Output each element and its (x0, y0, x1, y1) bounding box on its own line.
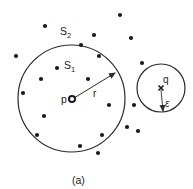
data-point (129, 36, 133, 40)
diagram: S2 S1 p r q ε (a) (0, 0, 193, 189)
data-point (118, 13, 122, 17)
data-point (86, 77, 90, 81)
data-point (140, 61, 144, 65)
data-point (39, 77, 43, 81)
data-point (92, 33, 96, 37)
data-point (136, 129, 140, 133)
data-point (21, 91, 25, 95)
label-s2: S2 (60, 25, 71, 40)
data-point (43, 24, 47, 28)
data-point (125, 125, 129, 129)
data-point (79, 43, 83, 47)
data-point (97, 54, 101, 58)
data-point (96, 151, 100, 155)
query-point-cross-icon (159, 86, 164, 91)
center-point-p (69, 96, 75, 102)
data-point (107, 103, 111, 107)
data-point (132, 103, 136, 107)
label-p: p (61, 93, 67, 105)
data-point (55, 66, 59, 70)
data-points (14, 13, 144, 155)
label-epsilon: ε (165, 98, 170, 109)
label-s1: S1 (64, 59, 75, 74)
data-point (14, 54, 18, 58)
data-point (35, 133, 39, 137)
label-r: r (93, 88, 97, 99)
data-point (78, 144, 82, 148)
caption: (a) (72, 174, 85, 186)
data-point (100, 133, 104, 137)
epsilon-arrow (161, 90, 163, 111)
label-q: q (163, 74, 169, 85)
data-point (42, 114, 46, 118)
